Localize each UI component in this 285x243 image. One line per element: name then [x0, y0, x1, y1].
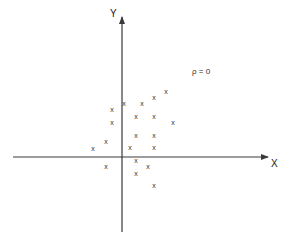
y-axis-label: Y: [110, 9, 117, 19]
data-point: x: [134, 113, 138, 120]
data-point: x: [134, 132, 138, 139]
correlation-annotation: ρ = 0: [192, 68, 210, 76]
data-point: x: [128, 144, 132, 151]
data-point: x: [134, 157, 138, 164]
data-point: x: [110, 119, 114, 126]
data-point: x: [110, 106, 114, 113]
data-point: x: [122, 100, 126, 107]
scatter-plot: [0, 0, 285, 243]
data-point: x: [104, 163, 108, 170]
data-point: x: [152, 144, 156, 151]
data-point: x: [152, 182, 156, 189]
data-point: x: [164, 88, 168, 95]
x-axis-label: X: [271, 159, 278, 169]
data-point: x: [171, 119, 175, 126]
data-point: x: [146, 163, 150, 170]
data-point: x: [152, 94, 156, 101]
data-point: x: [140, 100, 144, 107]
data-point: x: [134, 170, 138, 177]
data-point: x: [152, 113, 156, 120]
data-point: x: [91, 145, 95, 152]
data-point: x: [104, 138, 108, 145]
data-point: x: [152, 132, 156, 139]
